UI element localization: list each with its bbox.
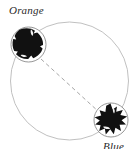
dashed-connector [41,59,99,112]
circle-diagram-figure: Orange Blue [0,0,138,149]
node-label-orange: Orange [9,4,44,16]
node-label-blue: Blue [103,140,124,149]
diagram-canvas [0,0,138,149]
node-blue [94,103,128,137]
node-orange [11,27,46,62]
